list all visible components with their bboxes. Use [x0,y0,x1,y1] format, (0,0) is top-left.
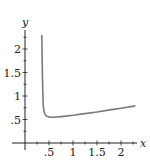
y-tick-label: .5 [11,114,22,127]
ticks [23,37,134,145]
y-tick-label: 2 [14,43,21,56]
tick-labels: .511.52.511.52 [4,43,125,159]
data-curve [42,35,136,117]
y-tick-label: 1 [14,90,21,103]
y-axis-label: y [21,16,29,29]
chart: .511.52.511.52 x y [0,0,150,163]
x-tick-label: 1.5 [88,146,106,159]
axes [12,30,137,150]
x-axis-label: x [140,137,147,150]
x-tick-label: .5 [44,146,55,159]
x-tick-label: 1 [70,146,77,159]
y-tick-label: 1.5 [4,67,22,80]
x-tick-label: 2 [118,146,125,159]
